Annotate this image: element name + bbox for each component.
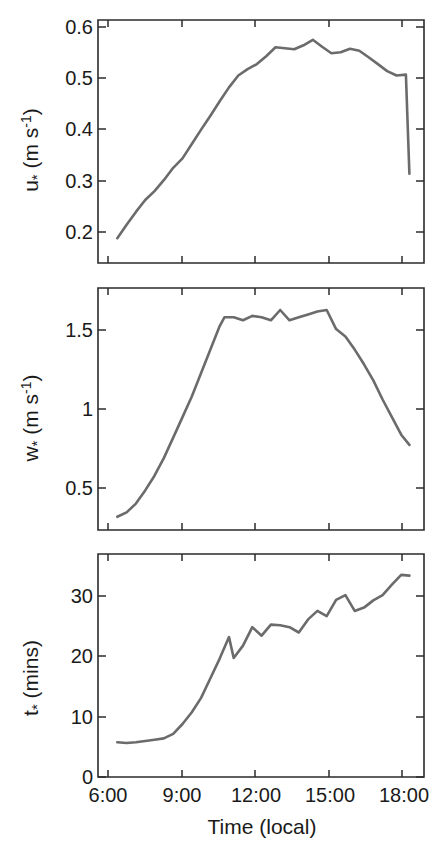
plot-frame: [98, 288, 424, 530]
y-tick-label: 1: [82, 398, 93, 420]
panel-t-star-svg: t* (mins) 0 10 20 30: [0, 546, 443, 866]
figure-container: u* (m s-1) 0.2 0.3 0.4 0.5 0.6: [0, 0, 443, 866]
series-t-star: [117, 575, 409, 743]
y-tick-label: 1.5: [65, 319, 93, 341]
y-ticks: [98, 27, 424, 232]
x-tick-label: 6:00: [89, 784, 128, 806]
y-tick-label: 0.6: [65, 16, 93, 38]
panel-u-star: u* (m s-1) 0.2 0.3 0.4 0.5 0.6: [0, 0, 443, 278]
y-tick-label: 0.5: [65, 67, 93, 89]
x-tick-label: 12:00: [231, 784, 281, 806]
x-ticks: [108, 20, 402, 263]
panel-w-star-svg: w* (m s-1) 0.5 1 1.5: [0, 278, 443, 546]
y-tick-label: 0.2: [65, 221, 93, 243]
x-tick-label: 9:00: [163, 784, 202, 806]
y-tick-label: 30: [71, 585, 93, 607]
y-tick-label: 0.3: [65, 170, 93, 192]
y-axis-title-w-star: w* (m s-1): [18, 374, 45, 462]
y-axis-title-t-star: t* (mins): [19, 640, 45, 716]
y-tick-label: 10: [71, 706, 93, 728]
y-tick-label: 0.5: [65, 477, 93, 499]
panel-w-star: w* (m s-1) 0.5 1 1.5: [0, 278, 443, 546]
y-axis-title-u-star: u* (m s-1): [18, 108, 45, 192]
y-ticks: [98, 330, 424, 488]
x-tick-label: 15:00: [305, 784, 355, 806]
panel-t-star: t* (mins) 0 10 20 30: [0, 546, 443, 866]
x-ticks: [108, 288, 402, 530]
x-axis-title: Time (local): [208, 815, 317, 838]
x-ticks: [108, 554, 402, 777]
series-w-star: [117, 310, 409, 517]
x-tick-label: 18:00: [379, 784, 429, 806]
plot-frame: [98, 20, 424, 263]
y-tick-label: 20: [71, 645, 93, 667]
y-ticks: [98, 596, 424, 777]
y-tick-label: 0.4: [65, 118, 93, 140]
series-u-star: [117, 40, 409, 238]
plot-frame: [98, 554, 424, 777]
panel-u-star-svg: u* (m s-1) 0.2 0.3 0.4 0.5 0.6: [0, 0, 443, 278]
